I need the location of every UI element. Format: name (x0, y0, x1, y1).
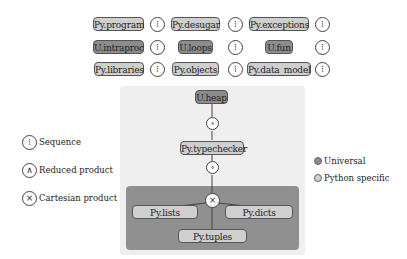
sequence-icon: ⁝ (22, 135, 37, 150)
composition-icon: ∘ (206, 161, 219, 174)
cartesian-product-icon: × (22, 191, 37, 206)
cartesian-product-icon: × (205, 193, 220, 208)
legend-label: Reduced product (39, 165, 113, 175)
node-u-heap: U.heap (195, 90, 228, 104)
reduced-product-icon: ∧ (22, 163, 37, 178)
python-swatch-icon (314, 174, 322, 182)
universal-swatch-icon (314, 157, 322, 165)
edges (0, 0, 407, 259)
node-py-typechecker: Py.typechecker (180, 141, 244, 155)
legend-label: Cartesian product (39, 193, 117, 203)
node-py-dicts: Py.dicts (225, 205, 293, 219)
legend-label: Sequence (39, 137, 81, 147)
legend-label: Universal (324, 156, 365, 166)
composition-icon: ∘ (206, 117, 219, 130)
node-py-tuples: Py.tuples (178, 229, 247, 243)
node-py-lists: Py.lists (132, 205, 198, 219)
legend-label: Python specific (324, 173, 389, 183)
